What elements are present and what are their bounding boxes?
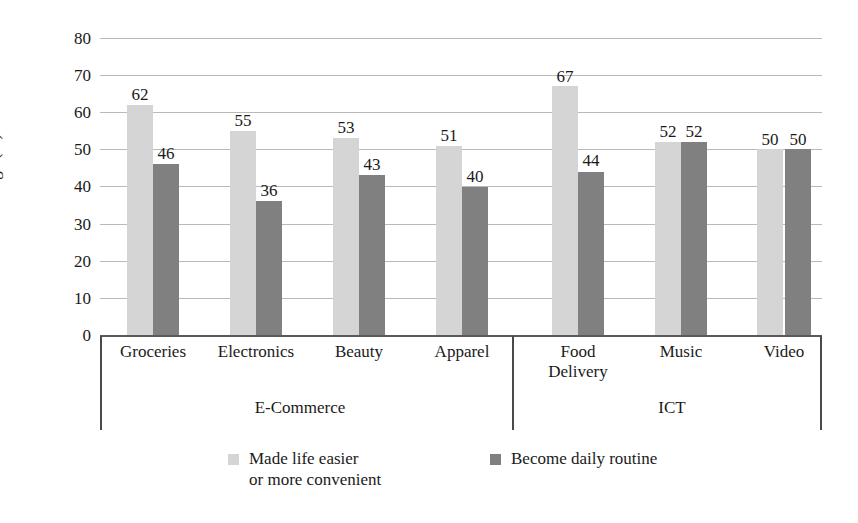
y-tick-40: 40 bbox=[74, 178, 100, 195]
y-tick-30: 30 bbox=[74, 216, 100, 233]
bar-label-apparel-easier: 51 bbox=[441, 127, 458, 144]
bar-label-apparel-routine: 40 bbox=[467, 168, 484, 185]
category-label-apparel-line1: Apparel bbox=[435, 342, 490, 362]
category-label-video: Video bbox=[764, 342, 805, 362]
category-label-apparel: Apparel bbox=[435, 342, 490, 362]
legend-item-made-life-easier[interactable]: Made life easier or more convenient bbox=[228, 448, 381, 491]
bar-label-electronics-routine: 36 bbox=[261, 182, 278, 199]
group-divider bbox=[512, 336, 514, 430]
group-label-ict: ICT bbox=[658, 398, 685, 418]
bar-label-groceries-routine: 46 bbox=[158, 145, 175, 162]
group-label-e-commerce: E-Commerce bbox=[255, 398, 346, 418]
bar-label-beauty-easier: 53 bbox=[338, 119, 355, 136]
bar-label-groceries-easier: 62 bbox=[132, 86, 149, 103]
bar-beauty-become-daily-routine[interactable] bbox=[359, 175, 385, 335]
bar-label-music-routine: 52 bbox=[686, 123, 703, 140]
category-label-video-line1: Video bbox=[764, 342, 805, 362]
category-label-food-delivery-line2: Delivery bbox=[548, 362, 607, 382]
category-label-groceries: Groceries bbox=[120, 342, 186, 362]
legend-swatch-light-icon bbox=[228, 454, 239, 465]
bar-groceries-become-daily-routine[interactable] bbox=[153, 164, 179, 335]
category-label-beauty-line1: Beauty bbox=[335, 342, 383, 362]
y-tick-60: 60 bbox=[74, 104, 100, 121]
category-label-groceries-line1: Groceries bbox=[120, 342, 186, 362]
bar-beauty-made-life-easier[interactable] bbox=[333, 138, 359, 335]
bar-apparel-made-life-easier[interactable] bbox=[436, 146, 462, 335]
category-label-electronics-line1: Electronics bbox=[218, 342, 294, 362]
y-tick-50: 50 bbox=[74, 141, 100, 158]
category-label-electronics: Electronics bbox=[218, 342, 294, 362]
category-label-beauty: Beauty bbox=[335, 342, 383, 362]
bar-label-beauty-routine: 43 bbox=[364, 156, 381, 173]
bar-apparel-become-daily-routine[interactable] bbox=[462, 187, 488, 336]
bars-layer: 62 46 55 36 53 43 51 40 67 44 bbox=[100, 38, 822, 335]
category-label-food-delivery: Food Delivery bbox=[548, 342, 607, 382]
y-tick-70: 70 bbox=[74, 67, 100, 84]
plot-area: 80 70 60 50 40 30 20 10 0 62 46 55 36 53… bbox=[100, 38, 822, 335]
bar-food-delivery-made-life-easier[interactable] bbox=[552, 86, 578, 335]
bar-electronics-made-life-easier[interactable] bbox=[230, 131, 256, 335]
chart-legend: Made life easier or more convenient Beco… bbox=[0, 448, 858, 508]
y-tick-0: 0 bbox=[83, 327, 101, 344]
legend-label-become-daily-routine: Become daily routine bbox=[511, 448, 657, 469]
legend-label-made-life-easier: Made life easier or more convenient bbox=[249, 448, 381, 491]
bar-label-video-routine: 50 bbox=[790, 131, 807, 148]
y-tick-80: 80 bbox=[74, 30, 100, 47]
bar-label-electronics-easier: 55 bbox=[235, 112, 252, 129]
y-tick-20: 20 bbox=[74, 253, 100, 270]
category-label-music: Music bbox=[660, 342, 703, 362]
bar-label-food-easier: 67 bbox=[557, 68, 574, 85]
chart-figure: Percentage (%) 80 70 60 50 40 30 20 10 0… bbox=[0, 0, 858, 523]
y-tick-10: 10 bbox=[74, 290, 100, 307]
bar-food-delivery-become-daily-routine[interactable] bbox=[578, 172, 604, 335]
legend-swatch-dark-icon bbox=[490, 454, 501, 465]
bar-video-become-daily-routine[interactable] bbox=[785, 149, 811, 335]
legend-item-become-daily-routine[interactable]: Become daily routine bbox=[490, 448, 657, 469]
bar-electronics-become-daily-routine[interactable] bbox=[256, 201, 282, 335]
bar-video-made-life-easier[interactable] bbox=[757, 149, 783, 335]
bar-label-video-easier: 50 bbox=[762, 131, 779, 148]
bar-music-become-daily-routine[interactable] bbox=[681, 142, 707, 335]
bar-label-food-routine: 44 bbox=[583, 152, 600, 169]
category-label-music-line1: Music bbox=[660, 342, 703, 362]
y-axis-title: Percentage (%) bbox=[0, 134, 4, 238]
bar-music-made-life-easier[interactable] bbox=[655, 142, 681, 335]
bar-label-music-easier: 52 bbox=[660, 123, 677, 140]
bar-groceries-made-life-easier[interactable] bbox=[127, 105, 153, 335]
category-label-food-delivery-line1: Food bbox=[548, 342, 607, 362]
